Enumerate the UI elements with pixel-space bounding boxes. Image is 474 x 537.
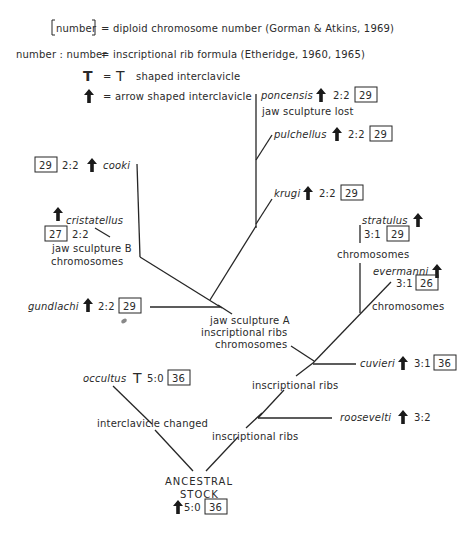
rib-formula: 3:1 — [414, 358, 431, 369]
arrow-icon — [87, 158, 97, 172]
legend-rib-formula: number : number = inscriptional rib form… — [16, 49, 365, 60]
ancestral-line1: ANCESTRAL — [165, 476, 233, 487]
legend-rib-symbol: number : number — [16, 49, 107, 60]
ancestral-line2: STOCK — [180, 489, 219, 500]
chromosome-number: 29 — [359, 90, 372, 101]
t-shape-icon: T — [132, 370, 142, 386]
legend-arrow-text: = arrow shaped interclavicle — [103, 91, 252, 102]
t-shape-icon: T — [115, 68, 125, 84]
rib-formula: 2:2 — [319, 188, 336, 199]
bracket-left — [52, 20, 55, 35]
arrow-icon — [53, 207, 63, 221]
phylogeny-diagram: number = diploid chromosome number (Gorm… — [0, 0, 474, 537]
taxon-occultus: occultus T 5:0 36 — [83, 370, 190, 386]
legend-t-eq: = — [103, 71, 112, 82]
legend-t-text: shaped interclavicle — [136, 71, 240, 82]
node-label-interclavicle: interclavicle changed — [97, 418, 208, 429]
taxon-cuvieri: cuvieri 3:1 36 — [360, 355, 456, 370]
chromosome-number: 27 — [49, 229, 62, 240]
taxon-note-chromosomes: chromosomes — [51, 256, 123, 267]
chromosome-number: 29 — [123, 301, 136, 312]
chromosome-number: 26 — [420, 278, 433, 289]
taxon-roosevelti: roosevelti 3:2 — [340, 410, 431, 424]
arrow-icon — [316, 88, 326, 102]
legend-chromosome: number = diploid chromosome number (Gorm… — [52, 20, 394, 35]
taxon-poncensis: poncensis 2:2 29 jaw sculpture lost — [260, 87, 377, 117]
arrow-icon — [398, 356, 408, 370]
taxon-gundlachi: gundlachi 2:2 29 — [28, 298, 141, 324]
taxon-stratulus: stratulus 3:1 29 chromosomes — [337, 213, 423, 260]
legend-arrow-shaped: = arrow shaped interclavicle — [84, 89, 252, 103]
arrow-icon — [83, 298, 93, 312]
rib-formula: 3:2 — [414, 412, 431, 423]
node-label-line2: inscriptional ribs — [201, 327, 287, 338]
arrow-icon — [332, 127, 342, 141]
taxon-name: cooki — [103, 160, 130, 171]
taxon-name: roosevelti — [340, 412, 391, 423]
rib-formula: 2:2 — [98, 301, 115, 312]
rib-formula: 3:1 — [364, 229, 381, 240]
taxon-krugi: krugi 2:2 29 — [274, 185, 363, 200]
legend-chromosome-text: = diploid chromosome number (Gorman & At… — [101, 23, 394, 34]
taxon-name: poncensis — [260, 90, 313, 101]
taxon-note-jaw: jaw sculpture B — [51, 243, 132, 254]
chromosome-number: 29 — [374, 129, 387, 140]
arrow-icon — [173, 500, 183, 514]
legend-rib-text: = inscriptional rib formula (Etheridge, … — [101, 49, 365, 60]
arrow-icon — [303, 186, 313, 200]
taxon-evermanni: evermanni 3:1 26 chromosomes — [372, 264, 444, 312]
node-jaw-sculpture-a: jaw sculpture A inscriptional ribs chrom… — [201, 315, 290, 350]
node-label-line1: jaw sculpture A — [209, 315, 290, 326]
taxon-cooki: 29 2:2 cooki — [35, 157, 130, 172]
taxon-pulchellus: pulchellus 2:2 29 — [273, 126, 392, 141]
legend-t-shaped: T = T shaped interclavicle — [83, 68, 240, 84]
chromosome-number: 29 — [345, 188, 358, 199]
node-label-ribs-lower: inscriptional ribs — [212, 431, 298, 442]
legend-chromosome-symbol: number — [56, 23, 97, 34]
taxon-name: krugi — [274, 188, 300, 199]
taxon-note: jaw sculpture lost — [261, 106, 354, 117]
chromosome-number: 29 — [391, 229, 404, 240]
arrow-icon — [398, 410, 408, 424]
chromosome-number: 36 — [438, 358, 451, 369]
taxon-name: cristatellus — [66, 215, 123, 226]
rib-formula: 2:2 — [62, 160, 79, 171]
arrow-icon — [84, 89, 94, 103]
taxon-cristatellus: cristatellus 27 2:2 jaw sculpture B chro… — [45, 207, 132, 267]
chromosome-number: 36 — [209, 502, 222, 513]
taxon-name: cuvieri — [360, 358, 395, 369]
rib-formula: 5:0 — [147, 373, 164, 384]
taxon-name: pulchellus — [273, 129, 327, 140]
rib-formula: 5:0 — [184, 502, 201, 513]
chromosome-number: 29 — [39, 160, 52, 171]
node-ancestral-stock: ANCESTRAL STOCK 5:0 36 — [165, 476, 233, 514]
taxon-name: gundlachi — [28, 301, 79, 312]
arrow-icon — [413, 213, 423, 227]
arrow-icon — [432, 264, 442, 278]
node-label-ribs-upper: inscriptional ribs — [252, 380, 338, 391]
smudge-mark — [120, 318, 127, 324]
taxon-note: chromosomes — [372, 301, 444, 312]
taxon-note: chromosomes — [337, 249, 409, 260]
node-label-line3: chromosomes — [215, 339, 287, 350]
t-symbol-icon: T — [83, 68, 93, 84]
rib-formula: 2:2 — [333, 90, 350, 101]
rib-formula: 2:2 — [348, 129, 365, 140]
rib-formula: 3:1 — [396, 278, 413, 289]
chromosome-number: 36 — [172, 373, 185, 384]
taxon-name: occultus — [83, 373, 126, 384]
taxon-name: stratulus — [362, 215, 408, 226]
rib-formula: 2:2 — [72, 229, 89, 240]
